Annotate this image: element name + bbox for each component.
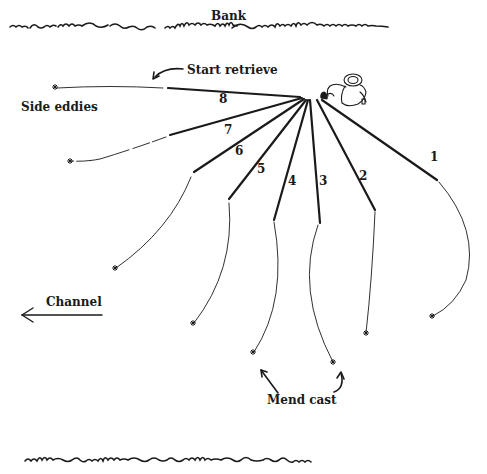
channel-arrow-icon <box>22 308 102 322</box>
channel-label: Channel <box>46 296 102 308</box>
cast-1-line <box>322 100 470 316</box>
cast-number-1: 1 <box>430 151 438 163</box>
cast-4-line <box>254 100 308 352</box>
fly-marker-2 <box>363 330 369 336</box>
cast-7-line <box>71 98 302 161</box>
cast-number-8: 8 <box>219 93 227 105</box>
cast-lines <box>57 87 470 363</box>
fly-marker-8 <box>52 84 58 90</box>
cast-8-line <box>57 87 300 98</box>
cast-number-3: 3 <box>319 175 327 187</box>
angler-icon <box>321 74 366 106</box>
cast-number-7: 7 <box>224 124 232 136</box>
bank-bottom-line <box>25 458 311 463</box>
start-retrieve-arrow-icon <box>153 69 183 79</box>
bank-top-line <box>10 23 388 30</box>
cast-3-line <box>309 100 333 362</box>
fly-marker-1 <box>429 313 435 319</box>
cast-number-5: 5 <box>257 163 265 175</box>
cast-number-4: 4 <box>288 175 296 187</box>
cast-number-2: 2 <box>359 170 367 182</box>
bank-top-label: Bank <box>211 10 246 22</box>
fly-marker-6 <box>112 265 118 271</box>
cast-number-6: 6 <box>235 145 243 157</box>
side-eddies-label: Side eddies <box>21 101 98 113</box>
fly-marker-3 <box>330 359 336 365</box>
fly-markers <box>52 84 435 365</box>
mend-cast-label: Mend cast <box>267 394 337 406</box>
start-retrieve-label: Start retrieve <box>187 64 278 76</box>
cast-5-line <box>194 100 306 323</box>
mend-cast-arrows-icon <box>261 370 344 393</box>
fly-casting-diagram: Bank Start retrieve Side eddies Channel … <box>0 0 487 474</box>
fly-marker-7 <box>67 158 73 164</box>
cast-2-line <box>317 100 375 333</box>
